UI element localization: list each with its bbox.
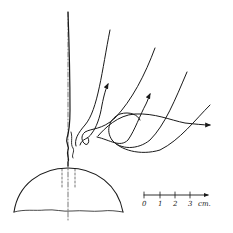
trajectory-5 <box>109 72 187 148</box>
diagram-figure: 0 1 2 3 cm. <box>0 0 233 233</box>
scale-unit: cm. <box>198 200 211 208</box>
scale-tick-3: 3 <box>188 200 193 208</box>
central-jet <box>67 12 74 166</box>
scale-bar: 0 1 2 3 cm. <box>142 192 211 208</box>
trajectory-2-arrow <box>80 84 108 145</box>
scale-tick-1: 1 <box>158 200 162 208</box>
scale-tick-0: 0 <box>142 200 147 208</box>
trajectory-4-arrow <box>97 94 150 143</box>
scale-tick-2: 2 <box>172 200 178 208</box>
trajectory-3 <box>82 48 155 144</box>
trajectory-7 <box>112 105 210 152</box>
